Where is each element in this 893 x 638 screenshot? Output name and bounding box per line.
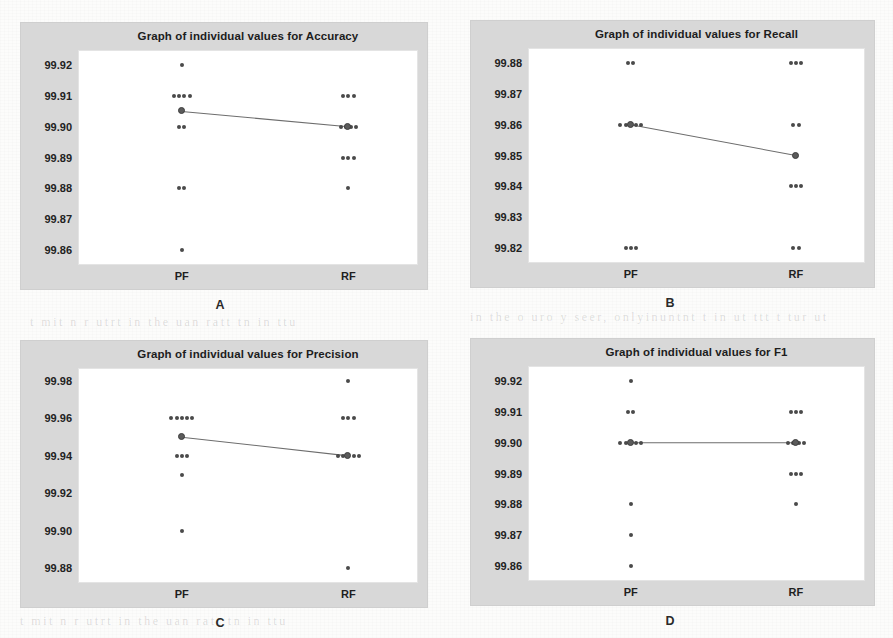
y-axis-tick-label: 99.86 xyxy=(20,245,72,256)
data-point xyxy=(791,246,795,250)
y-axis-tick-label: 99.90 xyxy=(20,526,72,537)
x-axis-tick-label-pf: PF xyxy=(606,269,656,280)
data-point xyxy=(180,529,184,533)
data-point xyxy=(180,473,184,477)
y-axis-tick-label: 99.92 xyxy=(470,376,522,387)
mean-marker xyxy=(792,439,799,446)
data-point xyxy=(624,246,628,250)
y-axis-tick-label: 99.89 xyxy=(20,153,72,164)
y-axis-tick-label: 99.88 xyxy=(20,563,72,574)
data-point xyxy=(789,472,793,476)
panel-letter-a: A xyxy=(200,298,240,312)
plot-area xyxy=(528,366,865,581)
chart-title: Graph of individual values for Accuracy xyxy=(78,30,418,42)
x-axis-tick-label-rf: RF xyxy=(323,589,373,600)
y-axis-tick-label: 99.87 xyxy=(20,214,72,225)
x-axis-tick-label-pf: PF xyxy=(606,587,656,598)
panel-letter-d: D xyxy=(650,614,690,628)
y-axis-tick-label: 99.87 xyxy=(470,530,522,541)
plot-area xyxy=(78,368,418,583)
data-point xyxy=(629,246,633,250)
data-point xyxy=(634,441,638,445)
data-point xyxy=(357,454,361,458)
y-axis-tick-label: 99.86 xyxy=(470,561,522,572)
chart-panel-b: Graph of individual values for Recall99.… xyxy=(470,20,875,328)
data-point xyxy=(634,123,638,127)
data-point xyxy=(188,94,192,98)
data-point xyxy=(180,454,184,458)
y-axis-tick-label: 99.96 xyxy=(20,413,72,424)
plot-area xyxy=(78,50,418,265)
data-point xyxy=(789,184,793,188)
figure-page: in the nuon is a sub inter unit the the … xyxy=(0,0,893,638)
data-point xyxy=(180,248,184,252)
data-point xyxy=(185,454,189,458)
y-axis-tick-label: 99.84 xyxy=(470,181,522,192)
mean-marker xyxy=(178,433,185,440)
data-point xyxy=(354,125,358,129)
y-axis-tick-label: 99.88 xyxy=(470,58,522,69)
y-axis-tick-label: 99.83 xyxy=(470,212,522,223)
data-point xyxy=(172,94,176,98)
y-axis-tick-label: 99.88 xyxy=(470,499,522,510)
data-point xyxy=(339,125,343,129)
data-point xyxy=(352,94,356,98)
panel-letter-c: C xyxy=(200,616,240,630)
y-axis-tick-label: 99.98 xyxy=(20,376,72,387)
plot-area xyxy=(528,48,865,263)
chart-panel-a: Graph of individual values for Accuracy9… xyxy=(20,22,428,330)
data-point xyxy=(341,156,345,160)
x-axis-tick-label-rf: RF xyxy=(771,269,821,280)
data-point xyxy=(789,410,793,414)
data-point xyxy=(352,454,356,458)
y-axis-tick-label: 99.82 xyxy=(470,243,522,254)
data-point xyxy=(799,472,803,476)
mean-marker xyxy=(792,152,799,159)
data-point xyxy=(802,441,806,445)
x-axis-tick-label-rf: RF xyxy=(323,271,373,282)
chart-panel-d: Graph of individual values for F199.9299… xyxy=(470,338,875,638)
y-axis-tick-label: 99.91 xyxy=(470,407,522,418)
y-axis-tick-label: 99.90 xyxy=(20,122,72,133)
data-point xyxy=(797,123,801,127)
x-axis-tick-label-pf: PF xyxy=(157,589,207,600)
data-point xyxy=(794,410,798,414)
data-point xyxy=(639,441,643,445)
y-axis-tick-label: 99.89 xyxy=(470,469,522,480)
data-point xyxy=(336,454,340,458)
x-axis-tick-label-pf: PF xyxy=(157,271,207,282)
chart-title: Graph of individual values for F1 xyxy=(528,346,865,358)
data-point xyxy=(175,454,179,458)
data-point xyxy=(797,246,801,250)
y-axis-tick-label: 99.94 xyxy=(20,451,72,462)
mean-marker xyxy=(627,439,634,446)
y-axis-tick-label: 99.92 xyxy=(20,60,72,71)
data-point xyxy=(634,246,638,250)
chart-title: Graph of individual values for Precision xyxy=(78,348,418,360)
data-point xyxy=(639,123,643,127)
y-axis-tick-label: 99.88 xyxy=(20,183,72,194)
chart-title: Graph of individual values for Recall xyxy=(528,28,865,40)
data-point xyxy=(786,441,790,445)
data-point xyxy=(346,156,350,160)
y-axis-tick-label: 99.85 xyxy=(470,151,522,162)
chart-panel-c: Graph of individual values for Precision… xyxy=(20,340,428,638)
y-axis-tick-label: 99.91 xyxy=(20,91,72,102)
y-axis-tick-label: 99.87 xyxy=(470,89,522,100)
data-point xyxy=(177,125,181,129)
data-point xyxy=(794,472,798,476)
y-axis-tick-label: 99.92 xyxy=(20,488,72,499)
x-axis-tick-label-rf: RF xyxy=(771,587,821,598)
y-axis-tick-label: 99.90 xyxy=(470,438,522,449)
data-point xyxy=(629,502,633,506)
mean-marker xyxy=(627,121,634,128)
data-point xyxy=(629,533,633,537)
panel-letter-b: B xyxy=(650,296,690,310)
data-point xyxy=(352,156,356,160)
data-point xyxy=(629,564,633,568)
y-axis-tick-label: 99.86 xyxy=(470,120,522,131)
